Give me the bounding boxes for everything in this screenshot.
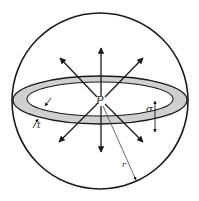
sphere-ring-diagram: P t σ r [0,0,199,201]
label-center-p: P [95,94,104,107]
label-thickness-t: t [37,120,41,130]
label-width-sigma: σ [146,103,154,114]
label-radius-r: r [122,160,127,169]
